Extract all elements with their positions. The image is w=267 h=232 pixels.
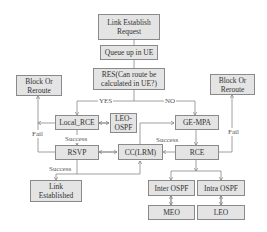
node-rce: RCE: [175, 145, 219, 160]
edge-label-success-local: Success: [64, 135, 88, 143]
node-ge-mpa: GE-MPA: [175, 115, 219, 130]
node-cc-lrm: CC(LRM): [118, 144, 163, 160]
node-block-right: Block Or Reroute: [210, 74, 255, 95]
node-block-left: Block Or Reroute: [16, 75, 62, 96]
node-local-rce: Local_RCE: [55, 115, 99, 130]
node-inter-ospf: Inter OSPF: [148, 180, 195, 196]
edge-label-no: NO: [164, 97, 176, 105]
node-intra-ospf: Intra OSPF: [197, 180, 245, 196]
node-res-decision: RES(Can route be calculated in UE?): [93, 68, 165, 90]
node-link-established: Link Established: [30, 180, 82, 202]
node-rsvp: RSVP: [55, 145, 99, 160]
edge-label-fail-left: Fail: [31, 130, 44, 138]
node-queue: Queue up in UE: [100, 45, 158, 60]
edge-label-fail-right: Fail: [227, 128, 240, 136]
node-link-request: Link Establish Request: [98, 14, 160, 40]
node-leo: LEO: [197, 205, 245, 220]
node-meo: MEO: [148, 205, 195, 220]
node-leo-ospf: LEO-OSPF: [110, 113, 137, 133]
edge-label-success-rsvp: Success: [48, 165, 72, 173]
edge-label-success-rce: Success: [155, 136, 179, 144]
edge-label-yes: YES: [98, 97, 113, 105]
